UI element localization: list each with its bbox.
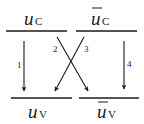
level-label-bottom-right: u V xyxy=(97,101,116,122)
svg-text:C: C xyxy=(102,15,109,27)
arrow-label-1: 1 xyxy=(17,60,22,70)
transition-diagram: u C u C 1 2 3 4 u V u V xyxy=(0,0,144,124)
arrow-3 xyxy=(55,37,84,91)
svg-text:u: u xyxy=(28,101,38,122)
arrow-label-4: 4 xyxy=(127,59,132,69)
level-label-bottom-left: u V xyxy=(28,101,47,122)
level-label-top-left: u C xyxy=(24,8,42,29)
svg-text:u: u xyxy=(97,101,107,122)
svg-text:V: V xyxy=(108,108,116,120)
svg-text:V: V xyxy=(39,108,47,120)
level-label-top-right: u C xyxy=(91,8,109,29)
svg-text:u: u xyxy=(24,8,34,29)
svg-text:u: u xyxy=(91,8,101,29)
arrow-label-2: 2 xyxy=(53,44,58,54)
svg-text:C: C xyxy=(35,15,42,27)
arrow-label-3: 3 xyxy=(84,44,89,54)
